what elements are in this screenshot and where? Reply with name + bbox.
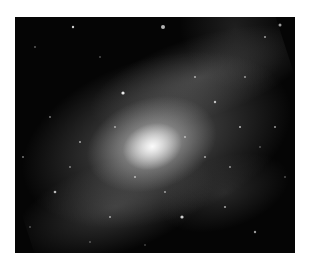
- galaxy-photo: [15, 17, 295, 253]
- star-field: [15, 17, 295, 253]
